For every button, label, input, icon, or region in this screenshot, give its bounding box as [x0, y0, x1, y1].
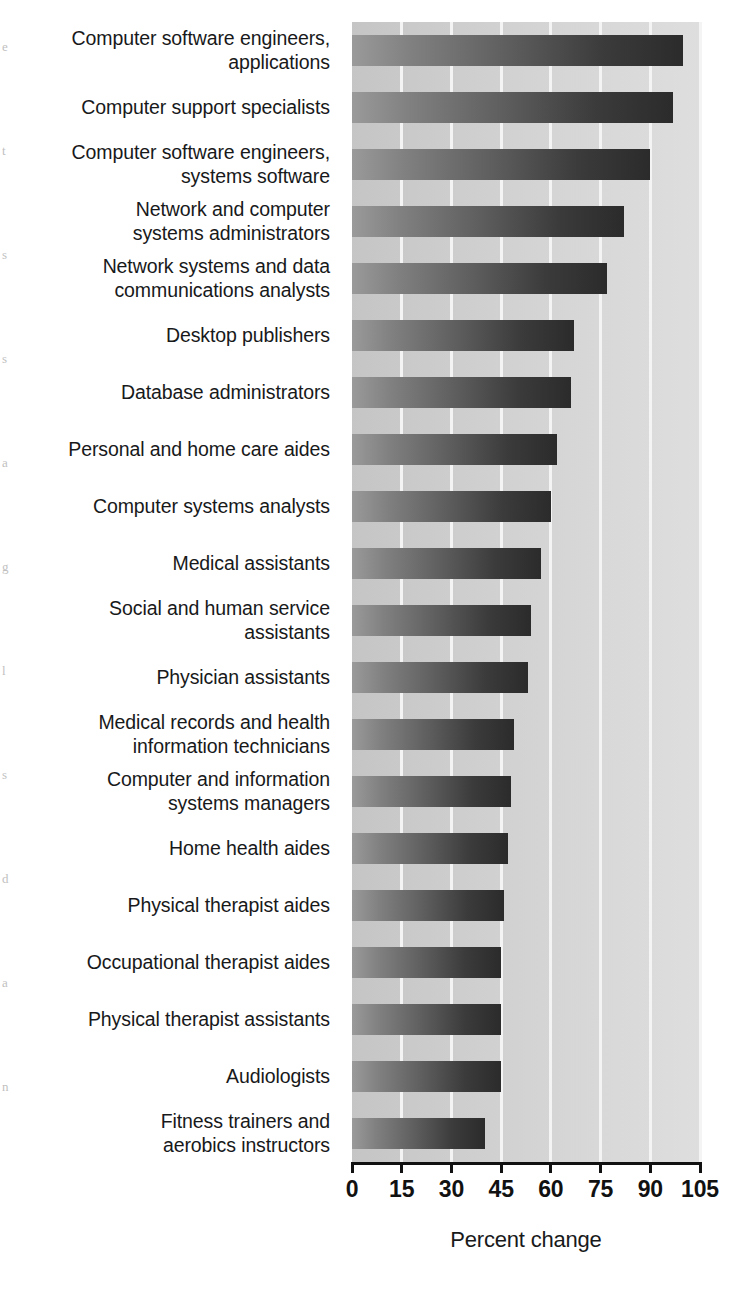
bar	[352, 719, 514, 750]
bar	[352, 377, 571, 408]
gridline	[649, 22, 652, 1162]
category-label: Desktop publishers	[0, 324, 330, 348]
category-label: Network and computer systems administrat…	[0, 198, 330, 245]
bar-row	[352, 434, 700, 465]
bar-row	[352, 320, 700, 351]
category-label: Computer software engineers, systems sof…	[0, 141, 330, 188]
bar-row	[352, 605, 700, 636]
x-axis-tick	[549, 1162, 552, 1173]
bar	[352, 1118, 485, 1149]
bar	[352, 149, 650, 180]
category-label: Computer support specialists	[0, 96, 330, 120]
gridline	[549, 22, 552, 1162]
bar-row	[352, 1061, 700, 1092]
x-axis-tick	[351, 1162, 354, 1173]
bar-row	[352, 377, 700, 408]
category-label: Network systems and data communications …	[0, 255, 330, 302]
bar	[352, 548, 541, 579]
category-axis-labels: Computer software engineers, application…	[0, 22, 340, 1162]
category-label: Computer systems analysts	[0, 495, 330, 519]
bar-row	[352, 149, 700, 180]
bar	[352, 263, 607, 294]
x-axis-tick	[649, 1162, 652, 1173]
bar	[352, 890, 504, 921]
bar	[352, 947, 501, 978]
bar	[352, 662, 528, 693]
category-label: Personal and home care aides	[0, 438, 330, 462]
category-label: Occupational therapist aides	[0, 951, 330, 975]
bar	[352, 92, 673, 123]
bar	[352, 206, 624, 237]
x-axis-tick	[400, 1162, 403, 1173]
bar	[352, 320, 574, 351]
plot-area	[352, 22, 700, 1162]
bar-chart: etssaglsdan Computer software engineers,…	[0, 0, 740, 1292]
bar	[352, 833, 508, 864]
bar-row	[352, 1004, 700, 1035]
bar	[352, 1004, 501, 1035]
category-label: Physical therapist aides	[0, 894, 330, 918]
gridline	[400, 22, 403, 1162]
category-label: Computer and information systems manager…	[0, 768, 330, 815]
bar	[352, 1061, 501, 1092]
category-label: Physician assistants	[0, 666, 330, 690]
gridline	[500, 22, 503, 1162]
category-label: Physical therapist assistants	[0, 1008, 330, 1032]
bar	[352, 776, 511, 807]
bar-row	[352, 206, 700, 237]
gridline	[450, 22, 453, 1162]
bar	[352, 434, 557, 465]
x-axis-tick	[450, 1162, 453, 1173]
bar	[352, 605, 531, 636]
bar-row	[352, 548, 700, 579]
bar-row	[352, 947, 700, 978]
bar-row	[352, 263, 700, 294]
bar	[352, 35, 683, 66]
bar-row	[352, 491, 700, 522]
bar-row	[352, 92, 700, 123]
x-axis-tick	[699, 1162, 702, 1173]
x-axis-tick	[500, 1162, 503, 1173]
x-axis-tick	[599, 1162, 602, 1173]
bar-row	[352, 776, 700, 807]
gridline	[699, 22, 702, 1162]
x-axis-tick-label: 105	[670, 1176, 730, 1203]
category-label: Database administrators	[0, 381, 330, 405]
category-label: Home health aides	[0, 837, 330, 861]
category-label: Fitness trainers and aerobics instructor…	[0, 1110, 330, 1157]
gridline	[599, 22, 602, 1162]
bar-row	[352, 890, 700, 921]
category-label: Computer software engineers, application…	[0, 27, 330, 74]
bar-row	[352, 719, 700, 750]
bar-row	[352, 1118, 700, 1149]
x-axis-title: Percent change	[352, 1227, 700, 1253]
bar	[352, 491, 551, 522]
category-label: Medical records and health information t…	[0, 711, 330, 758]
bar-row	[352, 35, 700, 66]
bar-row	[352, 662, 700, 693]
category-label: Medical assistants	[0, 552, 330, 576]
category-label: Social and human service assistants	[0, 597, 330, 644]
category-label: Audiologists	[0, 1065, 330, 1089]
bar-row	[352, 833, 700, 864]
